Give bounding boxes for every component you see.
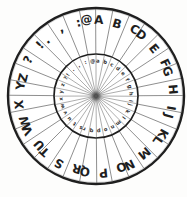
cipher-wheel-illustration: ABCDEFGHIJKLMNOPQRSTUVWXYZ?!.,:@abcdefgh… — [0, 0, 187, 197]
outer-ring-char: A — [94, 13, 105, 27]
cipher-wheel-root: ABCDEFGHIJKLMNOPQRSTUVWXYZ?!.,:@abcdefgh… — [8, 8, 184, 184]
pivot-dot — [94, 94, 98, 98]
outer-ring-char: @ — [80, 12, 94, 27]
cipher-wheel: ABCDEFGHIJKLMNOPQRSTUVWXYZ?!.,:@abcdefgh… — [0, 0, 187, 197]
outer-ring-char: P — [98, 165, 108, 180]
inner-ring-char: h — [128, 92, 134, 96]
outer-ring-char: H — [166, 84, 181, 95]
inner-ring-char: @ — [90, 57, 96, 63]
